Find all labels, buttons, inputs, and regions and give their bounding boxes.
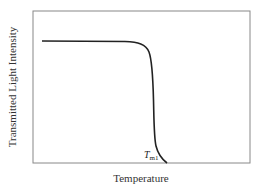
anno-sub: m1	[150, 154, 159, 162]
tm1-annotation: Tm1	[144, 149, 159, 162]
transmittance-curve	[42, 41, 167, 163]
plot-frame	[33, 11, 250, 163]
chart-canvas	[0, 0, 260, 191]
y-axis-label: Transmitted Light Intensity	[6, 27, 18, 148]
x-axis-label: Temperature	[113, 172, 168, 184]
